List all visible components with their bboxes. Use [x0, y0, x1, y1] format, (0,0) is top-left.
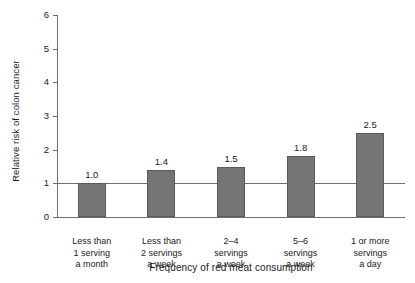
- bar-value-label: 1.8: [281, 142, 321, 153]
- category-label-line: servings: [266, 248, 336, 260]
- y-axis-title: Relative risk of colon cancer: [8, 6, 24, 236]
- y-tick-mark: [53, 217, 57, 218]
- y-tick-mark: [53, 116, 57, 117]
- bar-value-label: 1.5: [211, 153, 251, 164]
- bar: [356, 133, 384, 217]
- y-tick-mark: [53, 49, 57, 50]
- y-tick-label: 1: [31, 178, 49, 188]
- y-tick-label: 3: [31, 111, 49, 121]
- category-label-line: 1 or more: [335, 236, 405, 248]
- bar-value-label: 1.0: [72, 169, 112, 180]
- y-tick-mark: [53, 150, 57, 151]
- y-tick-label: 4: [31, 77, 49, 87]
- y-axis-line: [57, 15, 58, 218]
- category-label-line: Less than: [127, 236, 197, 248]
- bar-value-label: 2.5: [350, 119, 390, 130]
- category-label-line: 1 serving: [57, 248, 127, 260]
- category-label-line: Less than: [57, 236, 127, 248]
- category-label-line: 5–6: [266, 236, 336, 248]
- x-axis-title: Frequency of red meat consumption: [57, 262, 405, 273]
- category-label-line: 2–4: [196, 236, 266, 248]
- y-tick-mark: [53, 82, 57, 83]
- bar: [217, 167, 245, 218]
- bar-value-label: 1.4: [141, 156, 181, 167]
- bar: [78, 183, 106, 217]
- x-axis-line: [57, 217, 405, 218]
- bar-chart-figure: Relative risk of colon cancer 0123456 1.…: [0, 0, 415, 283]
- y-tick-label: 6: [31, 10, 49, 20]
- y-tick-label: 5: [31, 44, 49, 54]
- bar: [287, 156, 315, 217]
- y-tick-label: 2: [31, 145, 49, 155]
- category-label-line: 2 servings: [127, 248, 197, 260]
- y-tick-mark: [53, 15, 57, 16]
- bar: [147, 170, 175, 217]
- category-label-line: servings: [335, 248, 405, 260]
- y-tick-label: 0: [31, 212, 49, 222]
- category-label-line: servings: [196, 248, 266, 260]
- plot-area: 0123456 1.01.41.51.82.5 Less than1 servi…: [57, 15, 405, 217]
